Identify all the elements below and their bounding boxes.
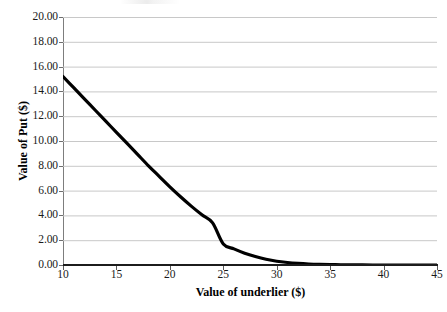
gridline-group (63, 18, 437, 241)
put-value-chart: 0.002.004.006.008.0010.0012.0014.0016.00… (0, 0, 447, 312)
data-series-group (63, 77, 437, 265)
data-line-value-of-put (63, 77, 437, 265)
y-tick-mark (59, 17, 63, 18)
y-tick-mark (59, 116, 63, 117)
y-tick-mark (59, 42, 63, 43)
x-tick-mark (437, 266, 438, 270)
y-axis-title: Value of Put ($) (16, 71, 30, 211)
scan-artifact (120, 0, 180, 4)
y-tick-label: 18.00 (10, 36, 58, 48)
x-tick-mark (170, 266, 171, 270)
y-tick-mark (59, 91, 63, 92)
y-tick-mark (59, 166, 63, 167)
y-tick-label: 4.00 (10, 209, 58, 221)
y-tick-mark (59, 67, 63, 68)
x-tick-label: 45 (417, 268, 447, 281)
y-axis-tick-label-group: 0.002.004.006.008.0010.0012.0014.0016.00… (4, 0, 58, 312)
x-tick-mark (116, 266, 117, 270)
plot-svg (63, 17, 437, 265)
y-tick-mark (59, 215, 63, 216)
y-tick-mark (59, 141, 63, 142)
x-axis-title: Value of underlier ($) (63, 285, 438, 299)
y-tick-label: 20.00 (10, 11, 58, 23)
y-tick-mark (59, 191, 63, 192)
x-axis-line (63, 264, 438, 266)
plot-area (63, 17, 437, 265)
y-tick-label: 2.00 (10, 234, 58, 246)
x-tick-mark (63, 266, 64, 270)
x-tick-mark (330, 266, 331, 270)
x-tick-mark (384, 266, 385, 270)
x-tick-mark (277, 266, 278, 270)
x-tick-mark (223, 266, 224, 270)
y-tick-mark (59, 240, 63, 241)
